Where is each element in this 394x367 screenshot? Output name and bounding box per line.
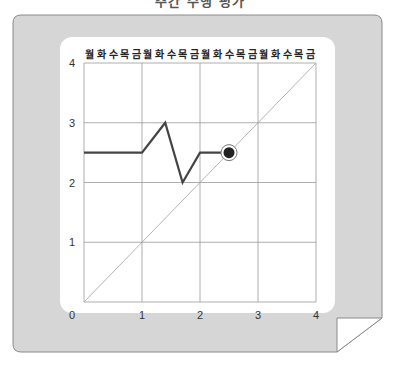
- header-day-label: 목: [236, 49, 245, 60]
- marker-dot: [224, 147, 235, 158]
- chart-panel: 012341234월화수목금월화수목금월화수목금월화수목금: [0, 0, 394, 367]
- x-tick-label: 0: [69, 309, 75, 321]
- header-day-label: 금: [132, 49, 141, 60]
- x-tick-label: 2: [197, 309, 203, 321]
- header-day-label: 월: [259, 49, 268, 60]
- header-day-label: 월: [143, 49, 152, 60]
- x-tick-label: 4: [313, 309, 319, 321]
- y-tick-label: 4: [69, 57, 75, 69]
- y-tick-label: 3: [69, 117, 75, 129]
- header-day-label: 수: [283, 49, 292, 60]
- folded-corner: [337, 318, 382, 352]
- header-day-label: 월: [201, 49, 210, 60]
- header-day-label: 금: [248, 49, 257, 60]
- header-day-label: 목: [178, 49, 187, 60]
- x-tick-label: 1: [139, 309, 145, 321]
- header-day-label: 금: [306, 49, 315, 60]
- header-day-label: 화: [213, 49, 223, 60]
- chart-card: [60, 37, 335, 313]
- y-tick-label: 1: [69, 236, 75, 248]
- header-day-label: 화: [155, 49, 165, 60]
- x-tick-label: 3: [255, 309, 261, 321]
- header-day-label: 수: [225, 49, 234, 60]
- header-day-label: 목: [294, 49, 303, 60]
- header-day-label: 목: [120, 49, 129, 60]
- header-day-label: 화: [97, 49, 107, 60]
- header-day-label: 수: [109, 49, 118, 60]
- header-day-label: 금: [190, 49, 199, 60]
- header-day-label: 화: [271, 49, 281, 60]
- y-tick-label: 2: [69, 177, 75, 189]
- header-day-label: 수: [167, 49, 176, 60]
- header-day-label: 월: [85, 49, 94, 60]
